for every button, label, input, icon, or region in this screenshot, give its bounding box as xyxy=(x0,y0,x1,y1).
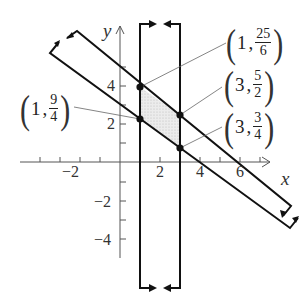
open-paren: ( xyxy=(20,88,30,129)
close-paren: ) xyxy=(60,88,70,129)
y-tick-label: −4 xyxy=(94,231,111,249)
close-paren: ) xyxy=(264,106,274,147)
left-vertical-boundary xyxy=(140,20,157,292)
point-x: 1 xyxy=(31,99,41,118)
fraction-denominator: 2 xyxy=(254,85,261,100)
fraction-denominator: 4 xyxy=(50,109,57,124)
point-x: 3 xyxy=(235,75,245,94)
point-y-fraction: 3 4 xyxy=(253,111,262,142)
fraction-numerator: 3 xyxy=(253,111,262,127)
x-axis-label: x xyxy=(281,168,289,190)
shaded-region xyxy=(140,87,180,148)
diagram-root: y x −2 2 4 6 4 2 −2 −4 ( 1, 25 6 ) ( 1, … xyxy=(0,0,304,297)
point-x: 1 xyxy=(237,33,247,52)
open-paren: ( xyxy=(226,22,236,63)
x-tick-label: −2 xyxy=(62,163,79,181)
close-paren: ) xyxy=(273,22,283,63)
open-paren: ( xyxy=(224,106,234,147)
open-paren: ( xyxy=(224,64,234,105)
point-x: 3 xyxy=(235,117,245,136)
fraction-numerator: 9 xyxy=(49,93,58,109)
comma: , xyxy=(249,33,254,52)
y-axis xyxy=(116,26,126,258)
y-tick-label: −2 xyxy=(94,193,111,211)
fraction-numerator: 5 xyxy=(253,69,262,85)
point-label-3-5-2: ( 3, 5 2 ) xyxy=(224,69,274,100)
y-tick-label: 4 xyxy=(107,77,115,95)
close-paren: ) xyxy=(264,64,274,105)
point-3-3-4 xyxy=(176,144,183,151)
point-y-fraction: 5 2 xyxy=(253,69,262,100)
point-3-5-2 xyxy=(176,111,183,118)
point-label-1-25-6: ( 1, 25 6 ) xyxy=(226,27,283,58)
comma: , xyxy=(43,99,48,118)
x-tick-label: 6 xyxy=(236,163,244,181)
x-tick-label: 4 xyxy=(196,163,204,181)
comma: , xyxy=(247,117,252,136)
y-tick-label: 2 xyxy=(107,115,115,133)
x-tick-label: 2 xyxy=(156,163,164,181)
y-axis-label: y xyxy=(103,20,111,42)
right-vertical-boundary xyxy=(163,20,180,292)
fraction-denominator: 6 xyxy=(260,43,267,58)
point-label-1-9-4: ( 1, 9 4 ) xyxy=(20,93,70,124)
point-1-25-6 xyxy=(136,83,143,90)
point-y-fraction: 9 4 xyxy=(49,93,58,124)
point-y-fraction: 25 6 xyxy=(255,27,271,58)
comma: , xyxy=(247,75,252,94)
fraction-denominator: 4 xyxy=(254,127,261,142)
point-1-9-4 xyxy=(136,115,143,122)
point-label-3-3-4: ( 3, 3 4 ) xyxy=(224,111,274,142)
fraction-numerator: 25 xyxy=(255,27,271,43)
